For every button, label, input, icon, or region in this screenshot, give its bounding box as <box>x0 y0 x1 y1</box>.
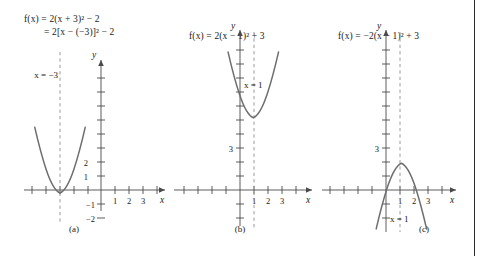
x-ticklabel-b-2: 2 <box>266 196 270 206</box>
axis-of-symmetry-label-c: x = 1 <box>390 214 409 224</box>
x-ticklabel-c-2: 2 <box>412 196 416 206</box>
y-ticklabel-a-1: 1 <box>84 172 88 182</box>
plot-b: x y 3 1 <box>172 0 320 235</box>
y-axis-a: y <box>91 50 105 218</box>
panel-label-b: (b) <box>166 224 314 234</box>
y-axis-label-a: y <box>91 50 97 60</box>
y-ticklabel-a-2: 2 <box>84 158 88 168</box>
y-ticklabel-b-3: 3 <box>229 144 233 154</box>
panel-label-c: (c) <box>348 224 486 234</box>
y-axis-label-c: y <box>376 21 382 31</box>
x-ticklabel-a-1: 1 <box>113 196 117 206</box>
panel-label-a: (a) <box>0 224 160 234</box>
x-axis-label-b: x <box>305 195 311 205</box>
x-ticklabel-a-3: 3 <box>141 196 145 206</box>
y-axis-label-b: y <box>230 21 236 31</box>
y-ticklabel-a-neg2: −2 <box>86 214 95 224</box>
plot-c: x y 3 1 <box>320 0 472 240</box>
x-axis-label-c: x <box>449 195 455 205</box>
axis-of-symmetry-label-b: x = 1 <box>244 80 263 90</box>
x-ticklabel-b-3: 3 <box>280 196 284 206</box>
plot-a: x y 2 1 −1 −2 <box>0 0 172 230</box>
panel-c: f(x) = −2(x − 1)² + 3 x <box>320 0 472 256</box>
x-ticklabel-c-3: 3 <box>426 196 430 206</box>
figure-root: f(x) = 2(x + 3)² − 2 = 2[x − (−3)]² − 2 … <box>0 0 486 256</box>
axis-of-symmetry-label-a: x = −3 <box>34 70 58 80</box>
right-border-rule <box>474 0 475 256</box>
y-ticklabel-a-neg1: −1 <box>86 200 95 210</box>
panel-a: f(x) = 2(x + 3)² − 2 = 2[x − (−3)]² − 2 … <box>0 0 172 256</box>
panel-b: f(x) = 2(x − 1)² + 3 x <box>172 0 320 256</box>
x-ticklabel-a-2: 2 <box>127 196 131 206</box>
x-axis-c: x <box>322 186 456 205</box>
x-axis-label-a: x <box>159 195 165 205</box>
y-axis-b: y <box>230 21 244 226</box>
y-ticklabel-c-3: 3 <box>375 144 379 154</box>
x-axis-b: x <box>174 186 312 205</box>
